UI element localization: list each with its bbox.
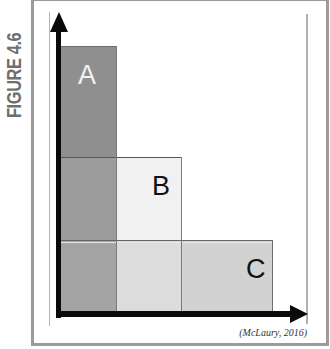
row-divider-top	[60, 157, 182, 158]
row-divider-bottom	[60, 240, 273, 241]
y-axis	[56, 26, 61, 318]
block-a-b-overlap	[60, 158, 116, 240]
citation: (McLaury, 2016)	[239, 327, 307, 338]
column-divider-2	[181, 157, 182, 312]
block-c-label: C	[246, 256, 266, 283]
y-axis-arrow-icon	[50, 12, 68, 32]
block-a-c-overlap	[60, 241, 116, 311]
block-a-label: A	[78, 62, 96, 89]
row-highlight	[60, 242, 272, 243]
x-axis	[56, 311, 296, 317]
block-b-label: B	[152, 173, 170, 200]
inner-frame-line-left	[49, 12, 50, 326]
figure-label: FIGURE 4.6	[2, 37, 26, 118]
block-b-c-overlap	[117, 241, 181, 311]
x-axis-arrow-icon	[290, 305, 308, 323]
inner-frame-line-right	[306, 14, 308, 324]
column-divider-1	[116, 46, 117, 312]
